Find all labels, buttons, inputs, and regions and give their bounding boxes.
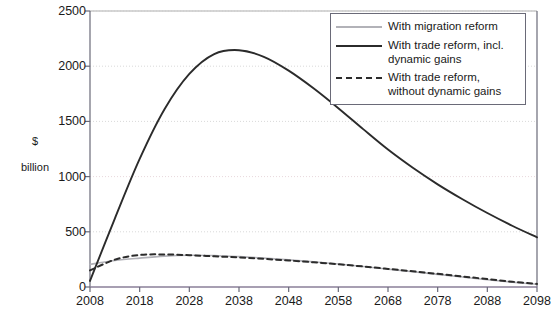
legend-item-label: With migration reform — [388, 20, 498, 34]
x-tick-label-2038: 2038 — [217, 295, 261, 308]
chart-legend[interactable]: With migration reform With trade reform,… — [330, 13, 526, 105]
x-tick-label-2088: 2088 — [465, 295, 509, 308]
x-tick-label-2098: 2098 — [515, 295, 555, 308]
x-tick-label-2018: 2018 — [118, 295, 162, 308]
x-tick-label-2008: 2008 — [68, 295, 112, 308]
line-solid-light-icon — [336, 20, 382, 34]
x-tick-label-2048: 2048 — [267, 295, 311, 308]
x-tick-label-2078: 2078 — [416, 295, 460, 308]
line-dashed-dark-icon — [336, 71, 382, 85]
x-tick-label-2068: 2068 — [366, 295, 410, 308]
legend-item[interactable]: With trade reform, incl. dynamic gains — [336, 39, 519, 66]
legend-item[interactable]: With migration reform — [336, 20, 519, 34]
legend-item[interactable]: With trade reform, without dynamic gains — [336, 71, 519, 98]
legend-item-label: With trade reform, incl. dynamic gains — [388, 39, 519, 66]
legend-item-label: With trade reform, without dynamic gains — [388, 71, 519, 98]
x-tick-label-2058: 2058 — [316, 295, 360, 308]
x-tick-label-2028: 2028 — [167, 295, 211, 308]
line-solid-dark-icon — [336, 39, 382, 53]
